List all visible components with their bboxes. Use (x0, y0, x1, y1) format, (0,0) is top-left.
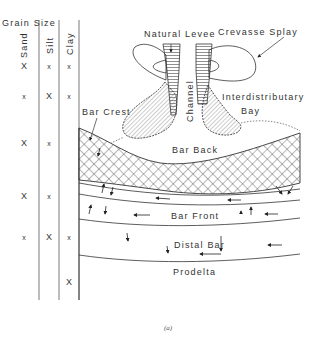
svg-text:x: x (47, 63, 51, 70)
svg-text:x: x (22, 234, 26, 241)
column-clay: Clay (65, 32, 75, 55)
crevasse-splay-lobes (133, 44, 256, 81)
svg-text:X: X (21, 61, 27, 71)
grain-size-marks: X x x x X x X x X x x X x X (21, 61, 72, 287)
figure-caption: (a) (164, 324, 173, 332)
label-bay: Bay (241, 106, 260, 116)
label-interdistributary: Interdistributary (222, 92, 304, 102)
label-crevasse-splay: Crevasse Splay (218, 27, 298, 37)
bar-back-crest-zone (79, 128, 300, 194)
svg-text:X: X (21, 138, 27, 148)
label-natural-levee: Natural Levee (144, 29, 216, 39)
svg-text:x: x (47, 193, 51, 200)
grain-size-table: Grain Size Sand Silt Clay X x x x X x X … (2, 18, 79, 300)
svg-text:X: X (46, 91, 52, 101)
svg-text:x: x (67, 93, 71, 100)
svg-text:x: x (22, 93, 26, 100)
svg-text:x: x (67, 234, 71, 241)
svg-text:X: X (46, 232, 52, 242)
label-bar-crest: Bar Crest (82, 107, 131, 117)
label-channel: Channel (185, 80, 195, 122)
label-bar-front: Bar Front (171, 211, 219, 221)
grain-size-title: Grain Size (2, 18, 56, 28)
delta-facies-diagram: Grain Size Sand Silt Clay X x x x X x X … (0, 0, 325, 346)
svg-text:x: x (47, 140, 51, 147)
svg-text:X: X (21, 191, 27, 201)
svg-text:x: x (67, 63, 71, 70)
label-prodelta: Prodelta (173, 267, 216, 277)
svg-text:X: X (66, 277, 72, 287)
label-bar-back: Bar Back (172, 145, 218, 155)
label-distal-bar: Distal Bar (174, 240, 225, 250)
column-silt: Silt (45, 37, 55, 54)
column-sand: Sand (19, 32, 29, 58)
